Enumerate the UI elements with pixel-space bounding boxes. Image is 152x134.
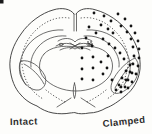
lesion-dot <box>92 56 95 59</box>
lesion-dot <box>107 28 110 31</box>
lesion-dot <box>125 70 128 73</box>
lesion-dot <box>134 32 137 35</box>
lesion-dot <box>114 47 117 50</box>
lesion-dot <box>121 77 124 80</box>
lesion-dot <box>92 79 95 82</box>
lesion-dot <box>92 67 95 70</box>
lesion-dot <box>111 79 114 82</box>
lesion-dot <box>100 61 103 64</box>
lesion-dot <box>108 43 111 46</box>
lesion-dot <box>129 64 132 67</box>
lesion-dot <box>81 47 84 50</box>
lesion-dot <box>110 20 113 23</box>
thalamus-outline <box>40 46 113 91</box>
lesion-dot <box>115 89 118 92</box>
lesion-dot <box>131 81 134 84</box>
lesion-dot <box>88 43 90 45</box>
lesion-dot <box>137 65 140 68</box>
lesion-dot <box>119 52 122 55</box>
ventral-dotted-line-left <box>46 90 67 103</box>
lesion-dot <box>88 26 91 29</box>
lesion-dot <box>81 57 84 60</box>
lesion-dot <box>118 84 121 87</box>
lesion-dot <box>91 43 93 45</box>
lesion-dot <box>138 57 141 60</box>
brain-section-figure: Intact Clamped <box>0 0 152 134</box>
lesion-dot <box>137 40 140 43</box>
lesion-dot <box>102 38 105 41</box>
lesion-dot <box>81 68 84 71</box>
lesion-dots-layer <box>81 12 141 94</box>
lesion-dot <box>131 72 134 75</box>
lesion-dot <box>133 55 136 58</box>
lesion-dot <box>126 31 129 34</box>
label-intact: Intact <box>10 116 38 127</box>
lesion-dot <box>95 32 98 35</box>
lesion-dot <box>132 46 135 49</box>
lesion-dot <box>90 41 92 43</box>
label-clamped: Clamped <box>102 114 146 129</box>
lesion-dot <box>112 32 115 35</box>
lesion-dot <box>124 18 127 21</box>
ventral-dotted-line-right <box>85 90 106 103</box>
lesion-dot <box>102 73 105 76</box>
lesion-dot <box>127 79 130 82</box>
lesion-dot <box>107 55 110 58</box>
lesion-dot <box>120 91 123 94</box>
left-hemisphere-structures <box>19 18 69 103</box>
lesion-dot <box>81 78 84 81</box>
lesion-dot <box>106 67 109 70</box>
lesion-dot <box>103 15 106 18</box>
lesion-dot <box>138 48 141 51</box>
lesion-dot <box>130 25 133 28</box>
lesion-dot <box>132 63 135 66</box>
lesion-dot <box>124 86 127 89</box>
lesion-dot <box>85 37 88 40</box>
lesion-dot <box>123 58 126 61</box>
lesion-dot <box>91 45 94 48</box>
lesion-dot <box>87 41 89 43</box>
lesion-dot <box>130 38 133 41</box>
midline-structures <box>40 38 113 107</box>
lesion-dot <box>127 87 130 90</box>
lesion-dot <box>100 24 103 27</box>
right-hemisphere-structures <box>81 18 139 103</box>
lesion-dot <box>93 12 96 15</box>
lesion-dot <box>120 86 123 89</box>
brain-section-svg: Intact Clamped <box>0 0 152 134</box>
lesion-dot <box>135 73 138 76</box>
lesion-dot <box>117 13 120 16</box>
lesion-dot <box>120 25 123 28</box>
corner-crop-mark <box>0 0 4 4</box>
